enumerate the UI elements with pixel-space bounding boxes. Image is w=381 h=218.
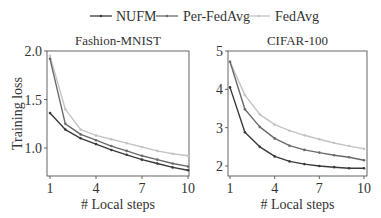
x-tick-label: 10 [181,181,195,196]
data-point-marker [333,154,336,157]
data-point-marker [79,137,82,140]
x-tick-label: 1 [227,181,234,196]
data-point-marker [273,123,276,126]
data-point-marker [141,154,144,157]
data-point-marker [49,55,52,58]
y-tick-label: 1.5 [25,93,43,108]
data-point-marker [244,131,247,134]
data-point-marker [156,150,159,153]
x-tick-label: 4 [93,181,100,196]
data-point-marker [64,108,67,111]
data-point-marker [64,128,67,131]
data-point-marker [110,145,113,148]
legend-label: Per-FedAvg [183,9,250,24]
data-point-marker [363,167,366,170]
data-point-marker [303,134,306,137]
y-tick-label: 3 [216,121,223,136]
x-axis-label: # Local steps [81,197,155,212]
legend-item-nufm: NUFM [90,9,157,24]
data-point-marker [333,142,336,145]
data-point-marker [49,57,52,60]
data-point-marker [258,113,261,116]
series-fedavg [49,55,190,158]
chart-fashion-mnist: Fashion-MNIST1.01.52.014710# Local steps… [10,33,195,212]
x-tick-label: 7 [139,181,146,196]
figure: NUFMPer-FedAvgFedAvg Fashion-MNIST1.01.5… [0,0,381,218]
chart-title: CIFAR-100 [267,33,328,48]
series-line [50,56,188,156]
legend-item-per-fedavg: Per-FedAvg [156,9,250,24]
y-axis-label: Training loss [10,77,25,150]
legend: NUFMPer-FedAvgFedAvg [90,9,319,24]
data-point-marker [229,60,232,63]
data-point-marker [303,149,306,152]
chart-title: Fashion-MNIST [75,33,161,48]
y-tick-label: 2.0 [25,44,43,59]
x-tick-label: 1 [47,181,54,196]
data-point-marker [156,158,159,161]
x-tick-label: 10 [357,181,371,196]
data-point-marker [303,163,306,166]
data-point-marker [95,134,98,137]
series-line [230,62,364,149]
data-point-marker [244,108,247,111]
data-point-marker [348,167,351,170]
data-point-marker [95,143,98,146]
data-point-marker [244,94,247,97]
data-point-marker [95,139,98,142]
legend-label: FedAvg [275,9,319,24]
data-point-marker [125,153,128,156]
y-tick-label: 1.0 [25,141,43,156]
legend-marker-icon [100,15,102,17]
legend-marker-icon [258,15,260,17]
data-point-marker [187,154,190,157]
data-point-marker [49,112,52,115]
data-point-marker [333,166,336,169]
y-tick-label: 4 [216,82,223,97]
data-point-marker [110,149,113,152]
data-point-marker [318,165,321,168]
data-point-marker [348,156,351,159]
data-point-marker [79,128,82,131]
data-point-marker [363,159,366,162]
data-point-marker [64,122,67,125]
data-point-marker [125,150,128,153]
chart-cifar-100: CIFAR-100234514710# Local steps [216,33,371,212]
data-point-marker [171,153,174,156]
x-axis-label: # Local steps [261,197,335,212]
legend-label: NUFM [116,9,157,24]
data-point-marker [187,169,190,172]
y-tick-label: 5 [216,44,223,59]
series-line [50,59,188,167]
data-point-marker [273,137,276,140]
data-point-marker [318,138,321,141]
data-point-marker [171,166,174,169]
data-point-marker [288,160,291,163]
data-point-marker [110,138,113,141]
data-point-marker [258,146,261,149]
series-per-fedavg [229,60,366,161]
data-point-marker [141,146,144,149]
data-point-marker [363,147,366,150]
legend-marker-icon [166,15,168,17]
data-point-marker [288,129,291,132]
data-point-marker [288,144,291,147]
data-point-marker [348,145,351,148]
x-tick-label: 7 [316,181,323,196]
y-tick-label: 2 [216,159,223,174]
data-point-marker [125,142,128,145]
legend-item-fedavg: FedAvg [248,9,319,24]
series-per-fedavg [49,57,190,167]
data-point-marker [79,133,82,136]
data-point-marker [156,162,159,165]
data-point-marker [141,158,144,161]
x-tick-label: 4 [271,181,278,196]
data-point-marker [171,162,174,165]
data-point-marker [318,151,321,154]
data-point-marker [187,165,190,168]
data-point-marker [273,155,276,158]
data-point-marker [229,86,232,89]
data-point-marker [258,126,261,129]
